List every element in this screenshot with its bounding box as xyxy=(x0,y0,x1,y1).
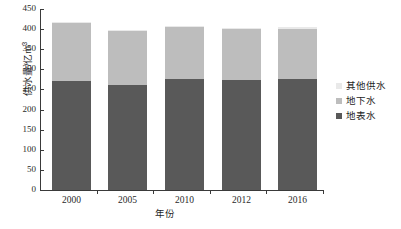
bar-segment xyxy=(108,30,147,85)
x-tick-label: 2010 xyxy=(161,195,209,206)
plot-area xyxy=(40,9,323,190)
x-tick-mark xyxy=(323,191,324,194)
bar-segment xyxy=(165,26,204,78)
legend-swatch-icon xyxy=(336,113,342,119)
legend-swatch-icon xyxy=(336,98,342,104)
bar-segment xyxy=(108,85,147,190)
x-axis-line xyxy=(40,190,324,191)
x-tick-mark xyxy=(210,191,211,194)
y-tick-label: 450 xyxy=(2,4,36,13)
bar-segment xyxy=(165,79,204,190)
bar-segment xyxy=(278,27,317,29)
bar-segment xyxy=(222,28,261,80)
legend-swatch-icon xyxy=(336,83,342,89)
stacked-bar-chart: 供水量/亿m3 450400350300250200150100500 2000… xyxy=(0,0,401,229)
y-tick-label: 50 xyxy=(2,165,36,174)
x-tick-label: 2000 xyxy=(48,195,96,206)
y-tick-label: 0 xyxy=(2,185,36,194)
legend-item[interactable]: 地下水 xyxy=(336,93,400,108)
y-tick-label: 100 xyxy=(2,145,36,154)
x-tick-label: 2012 xyxy=(218,195,266,206)
x-tick-label: 2016 xyxy=(274,195,322,206)
y-tick-label: 400 xyxy=(2,24,36,33)
legend-item[interactable]: 地表水 xyxy=(336,108,400,123)
y-tick-label: 300 xyxy=(2,64,36,73)
x-tick-mark xyxy=(153,191,154,194)
y-tick-label: 200 xyxy=(2,105,36,114)
y-tick-mark xyxy=(40,190,44,191)
y-tick-label: 350 xyxy=(2,44,36,53)
bar-segment xyxy=(222,80,261,190)
x-axis-title: 年份 xyxy=(0,208,330,219)
bar-segment xyxy=(278,29,317,78)
y-tick-label: 150 xyxy=(2,125,36,134)
legend-item-label: 地下水 xyxy=(346,96,376,106)
chart-legend: 其他供水地下水地表水 xyxy=(336,78,400,123)
legend-item-label: 地表水 xyxy=(346,111,376,121)
legend-item[interactable]: 其他供水 xyxy=(336,78,400,93)
bar-segment xyxy=(52,22,91,80)
x-tick-mark xyxy=(97,191,98,194)
bar-segment xyxy=(278,79,317,190)
y-tick-label: 250 xyxy=(2,84,36,93)
legend-item-label: 其他供水 xyxy=(346,81,386,91)
x-tick-mark xyxy=(266,191,267,194)
x-tick-label: 2005 xyxy=(104,195,152,206)
bar-segment xyxy=(52,81,91,190)
